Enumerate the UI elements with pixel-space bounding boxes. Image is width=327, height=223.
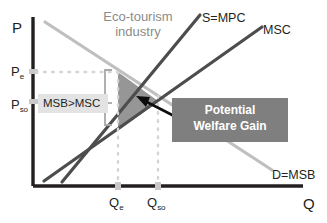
- qe-tick-label: Qe: [109, 196, 123, 209]
- pe-sub: e: [20, 72, 24, 81]
- demand-msb-curve-label: D=MSB: [272, 169, 315, 182]
- pso-axis-tick: [29, 99, 38, 104]
- msc-curve-label: MSC: [263, 24, 291, 37]
- welfare-gain-line-1: Potential: [205, 103, 256, 117]
- pso-sub: so: [20, 105, 28, 114]
- qso-tick-label: Qso: [147, 196, 165, 209]
- potential-welfare-gain-label: Potential Welfare Gain: [172, 102, 288, 134]
- qe-axis-tick: [115, 182, 121, 190]
- chart-title: Eco-tourism industry: [92, 9, 184, 40]
- qso-axis-tick: [155, 182, 161, 190]
- pe-base: P: [11, 64, 20, 79]
- qso-sub: so: [157, 203, 165, 212]
- qso-base: Q: [147, 195, 157, 210]
- welfare-gain-line-2: Welfare Gain: [193, 119, 266, 133]
- eco-tourism-externality-diagram: MSB>MSC Potential Welfare Gain Eco-touri…: [0, 0, 327, 223]
- qe-base: Q: [109, 195, 119, 210]
- pe-tick-label: Pe: [11, 65, 24, 78]
- pso-tick-label: Pso: [11, 98, 28, 111]
- qe-sub: e: [119, 203, 123, 212]
- pso-base: P: [11, 97, 20, 112]
- q-axis-label: Q: [303, 196, 315, 211]
- msb-greater-msc-label: MSB>MSC: [43, 98, 100, 110]
- p-axis-label: P: [12, 20, 22, 35]
- supply-mpc-curve-label: S=MPC: [202, 12, 245, 25]
